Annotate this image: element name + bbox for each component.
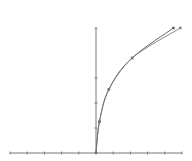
line-curve-1	[96, 28, 173, 153]
data-marker	[108, 88, 110, 90]
axes	[10, 28, 182, 155]
data-marker	[131, 57, 133, 59]
chart	[0, 0, 192, 161]
data-marker	[98, 121, 100, 123]
data-marker	[179, 27, 181, 29]
data-marker	[172, 27, 174, 29]
line-curve-2	[96, 28, 180, 153]
series-group	[96, 27, 181, 153]
